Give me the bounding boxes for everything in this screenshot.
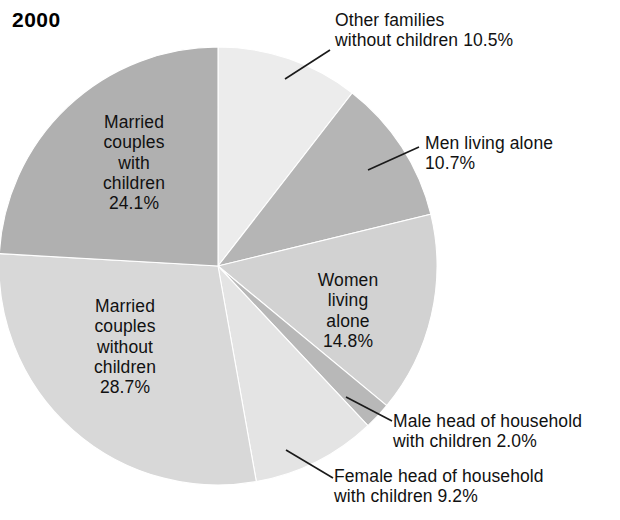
pie-slice-group: [0, 47, 437, 485]
slice-label-women-living-alone: Women living alone 14.8%: [296, 270, 400, 351]
slice-label-other-families: Other families without children 10.5%: [335, 10, 605, 51]
slice-label-men-living-alone: Men living alone 10.7%: [425, 133, 615, 174]
slice-label-married-with-children: Married couples with children 24.1%: [72, 112, 196, 213]
pie-chart-figure: 2000 Married couples with children 24.1%…: [0, 0, 620, 520]
slice-label-married-without-children: Married couples without children 28.7%: [60, 296, 190, 397]
slice-label-male-head-of-household: Male head of household with children 2.0…: [393, 411, 618, 452]
slice-label-female-head-of-household: Female head of household with children 9…: [334, 466, 614, 507]
